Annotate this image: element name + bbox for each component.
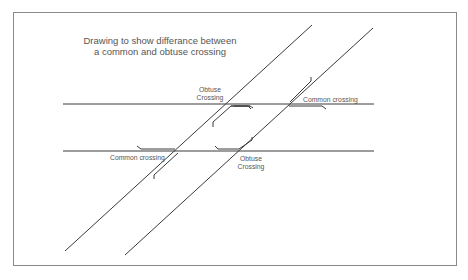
diamond-lower-left-wing [215, 146, 232, 149]
obtuse-crossing-top-wing-rail [213, 106, 250, 127]
obtuse-crossing-bottom-label: Obtuse Crossing [231, 155, 271, 171]
common-crossing-right-label: Common crossing [303, 96, 358, 104]
diagram-title: Drawing to show differance between a com… [80, 35, 240, 57]
common-crossing-left-check-rail [137, 146, 175, 149]
title-line-2: a common and obtuse crossing [80, 46, 240, 57]
diamond-lower-right-wing [232, 137, 252, 149]
diamond-upper-right-wing [234, 106, 251, 109]
left-diagonal-rail [65, 25, 312, 251]
title-line-1: Drawing to show differance between [80, 35, 240, 46]
obtuse-crossing-top-label: Obtuse Crossing [190, 86, 230, 102]
common-crossing-right-check-rail [289, 106, 326, 109]
obtuse-bottom-line2: Crossing [231, 163, 271, 171]
common-crossing-left-label: Common crossing [110, 154, 165, 162]
obtuse-bottom-line1: Obtuse [231, 155, 271, 163]
obtuse-top-line1: Obtuse [190, 86, 230, 94]
obtuse-top-line2: Crossing [190, 94, 230, 102]
